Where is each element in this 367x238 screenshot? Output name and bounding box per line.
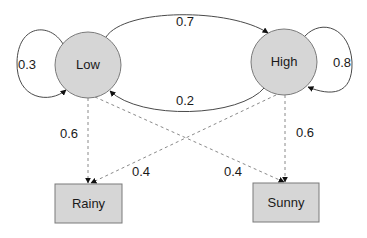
state-node-high: High xyxy=(251,29,317,95)
edge-label-high-sunny: 0.6 xyxy=(296,125,314,140)
edge-label-high-low: 0.2 xyxy=(176,93,194,108)
observation-label-rainy: Rainy xyxy=(72,196,106,211)
state-label-high: High xyxy=(271,54,298,69)
edge-label-low-low: 0.3 xyxy=(18,57,36,72)
edge-label-high-rainy: 0.4 xyxy=(132,164,150,179)
observation-node-sunny: Sunny xyxy=(253,183,319,222)
hmm-diagram: 0.3 0.7 0.2 0.8 0.6 0.4 0.4 0.6 Low High… xyxy=(0,0,367,238)
edge-label-low-rainy: 0.6 xyxy=(60,126,78,141)
edge-label-low-high: 0.7 xyxy=(176,14,194,29)
state-label-low: Low xyxy=(76,57,100,72)
observation-node-rainy: Rainy xyxy=(55,184,122,223)
state-node-low: Low xyxy=(55,32,121,98)
observation-label-sunny: Sunny xyxy=(268,195,305,210)
edge-label-low-sunny: 0.4 xyxy=(224,164,242,179)
edge-low-sunny xyxy=(95,97,284,182)
edge-label-high-high: 0.8 xyxy=(333,55,351,70)
